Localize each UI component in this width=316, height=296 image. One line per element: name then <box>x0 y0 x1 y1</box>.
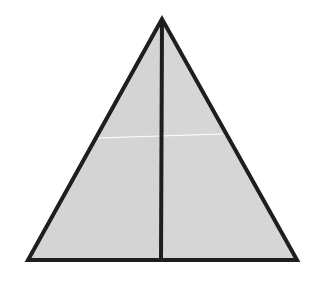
triangle-diagram <box>0 0 316 296</box>
median-line <box>161 21 162 260</box>
diagram-canvas <box>0 0 316 296</box>
